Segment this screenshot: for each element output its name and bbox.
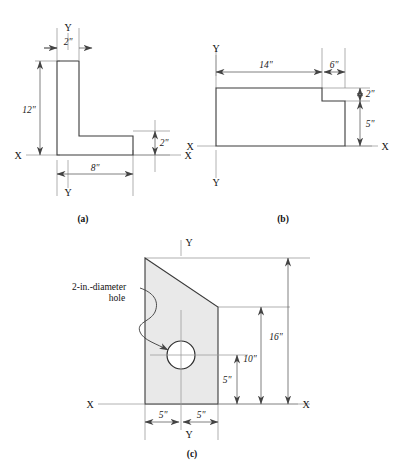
figure-a-dim-value-2in-top: 2" [64,37,74,47]
figure-c-dim-hole-height: 5" [223,355,237,404]
figure-a-section-outline [57,61,133,155]
figure-a-dim-flange-width: 2" [44,37,92,48]
figure-a-dim-value-2in-base: 2" [160,138,170,148]
technical-drawing-canvas: Y Y X X 2" 12" [0,0,400,471]
figure-b-caption: (b) [277,214,289,225]
figure-a-dim-value-12in: 12" [22,105,37,115]
figure-c-label-y-top: Y [185,237,192,248]
figure-a-label-y-top: Y [64,22,71,33]
figure-b-dim-value-5in: 5" [366,119,376,129]
figure-b-section-outline [216,88,345,146]
figure-b-dim-value-14in: 14" [259,60,274,70]
figure-a-label-y-bottom: Y [64,187,71,198]
figure-c-section-body [145,258,218,404]
figure-b-dim-value-2in: 2" [366,89,376,99]
figure-a-extension-lines [35,28,170,196]
figure-c-label-y-bottom: Y [185,429,192,440]
figure-c-dim-right-half-width: 5" [183,410,218,422]
figure-set: Y Y X X 2" 12" [0,0,400,471]
figure-a-dim-value-8in: 8" [91,163,101,173]
figure-b-label-y-bottom: Y [212,177,219,188]
figure-a-caption: (a) [77,214,88,225]
figure-b-dim-left-width: 14" [216,60,322,72]
figure-b-dim-step-height: 2" [360,88,375,101]
figure-c-dim-left-half-width: 5" [145,410,179,422]
figure-a-dim-overall-height: 12" [22,61,40,155]
figure-a-dim-overall-width: 8" [57,163,133,174]
figure-b: Y Y X X 14" 6" [186,43,389,225]
figure-b-dim-right-width: 6" [324,60,345,72]
figure-c-dim-right-edge-height: 10" [243,307,261,404]
figure-b-dim-value-6in: 6" [330,60,340,70]
figure-a: Y Y X X 2" 12" [14,22,192,225]
figure-b-label-y-top: Y [212,43,219,54]
figure-c-dim-value-10in: 10" [243,354,258,364]
figure-c-caption: (c) [187,449,198,460]
figure-c-dim-value-5in-vert: 5" [223,375,233,385]
figure-b-label-x-left: X [186,141,194,152]
figure-a-dim-base-thickness: 2" [155,120,169,172]
figure-c-dim-overall-height: 16" [269,258,288,404]
figure-c-hole-callout-line1: 2-in.-diameter [72,282,127,292]
figure-c-label-x-right: X [302,399,310,410]
figure-b-label-x-right: X [381,141,389,152]
figure-c-dim-value-5in-left: 5" [159,410,169,420]
figure-a-axis-y: Y Y [64,22,71,198]
figure-c-dim-value-16in: 16" [269,332,284,342]
figure-c: Y Y X X 16" 10" [72,237,310,460]
figure-b-dim-lower-height: 5" [360,101,375,146]
figure-c-hole-callout-line2: hole [109,293,125,303]
figure-b-extension-lines [216,48,372,146]
figure-c-label-x-left: X [86,399,94,410]
figure-c-dim-value-5in-right: 5" [197,410,207,420]
figure-a-label-x-left: X [14,150,22,161]
